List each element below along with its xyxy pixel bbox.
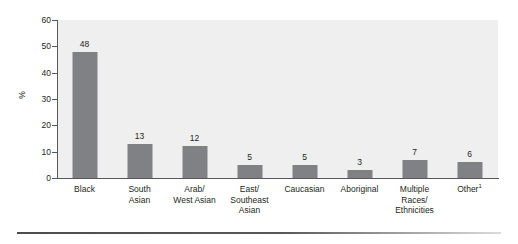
x-axis-category-line: Races/: [387, 195, 442, 206]
x-axis-category-label: Other1: [442, 184, 497, 195]
x-axis-category-line: Aboriginal: [332, 184, 387, 195]
bar-chart-figure: % 0102030405060 48131255376 BlackSouthAs…: [0, 0, 518, 244]
bar-slot: 5: [222, 20, 277, 178]
x-axis-category-line: Asian: [222, 205, 277, 216]
bar-slot: 7: [387, 20, 442, 178]
y-axis-tick-label: 0: [23, 174, 51, 183]
x-axis-category-label: Aboriginal: [332, 184, 387, 195]
bar-value-label: 5: [247, 153, 252, 162]
x-axis-category-label: Black: [57, 184, 112, 195]
y-axis-tick-label: 30: [23, 95, 51, 104]
y-axis-tick-label: 20: [23, 121, 51, 130]
x-axis-category-line: South: [112, 184, 167, 195]
x-axis-category-line: West Asian: [167, 195, 222, 206]
bar-slot: 5: [277, 20, 332, 178]
bar-value-label: 3: [357, 158, 362, 167]
bar-slot: 48: [57, 20, 112, 178]
bar-slot: 3: [332, 20, 387, 178]
bar[interactable]: [127, 144, 152, 178]
bar-value-label: 13: [135, 132, 144, 141]
x-axis-category-line: Ethnicities: [387, 205, 442, 216]
y-axis-tick-label: 10: [23, 148, 51, 157]
x-axis-category-label: Caucasian: [277, 184, 332, 195]
footnote-marker: 1: [478, 183, 481, 189]
bar[interactable]: [292, 165, 317, 178]
y-axis-ticks: 0102030405060: [24, 14, 57, 184]
x-axis-category-label: Arab/West Asian: [167, 184, 222, 205]
x-axis-line: [57, 178, 499, 179]
x-axis-category-line: Caucasian: [277, 184, 332, 195]
x-axis-category-line: Black: [57, 184, 112, 195]
bar[interactable]: [402, 160, 427, 178]
x-axis-category-line: Other1: [442, 184, 497, 195]
y-axis-tick-label: 40: [23, 69, 51, 78]
bar[interactable]: [457, 162, 482, 178]
y-axis-tick-label: 60: [23, 16, 51, 25]
bar[interactable]: [72, 52, 97, 178]
bar-slot: 12: [167, 20, 222, 178]
y-axis-tick-label: 50: [23, 42, 51, 51]
x-axis-category-line: East/: [222, 184, 277, 195]
bar-slot: 6: [442, 20, 497, 178]
x-axis-category-line: Asian: [112, 195, 167, 206]
bar[interactable]: [347, 170, 372, 178]
bar[interactable]: [237, 165, 262, 178]
bar-slot: 13: [112, 20, 167, 178]
x-axis-category-label: SouthAsian: [112, 184, 167, 205]
bars-group: 48131255376: [57, 20, 497, 178]
bar-value-label: 12: [190, 134, 199, 143]
x-axis-category-line: Multiple: [387, 184, 442, 195]
bar-value-label: 6: [467, 150, 472, 159]
x-axis-category-labels: BlackSouthAsianArab/West AsianEast/South…: [57, 184, 497, 232]
x-axis-category-label: East/SoutheastAsian: [222, 184, 277, 216]
bar-value-label: 7: [412, 148, 417, 157]
x-axis-category-label: MultipleRaces/Ethnicities: [387, 184, 442, 216]
x-axis-category-line: Arab/: [167, 184, 222, 195]
bar-value-label: 48: [80, 40, 89, 49]
bar-value-label: 5: [302, 153, 307, 162]
footer-divider: [17, 232, 501, 234]
x-axis-category-line: Southeast: [222, 195, 277, 206]
bar[interactable]: [182, 146, 207, 178]
